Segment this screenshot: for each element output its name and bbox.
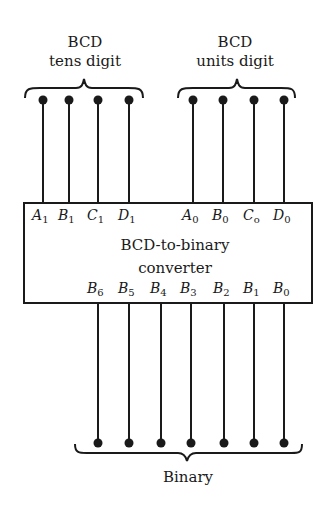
tens-terminal-3 [125,96,134,105]
units-brace [178,79,295,98]
binary-terminal-0 [94,439,103,448]
tens-pin-label-C1: C1 [87,208,104,225]
units-pin-label-A0: A0 [182,208,199,225]
block-label-line2: converter [90,261,260,276]
tens-pin-label-B1: B1 [58,208,75,225]
binary-pin-label-B1: B1 [243,281,260,298]
tens-terminal-2 [94,96,103,105]
units-terminal-0 [189,96,198,105]
block-label-line1: BCD-to-binary [90,238,260,253]
tens-pin-label-D1: D1 [118,208,136,225]
binary-title: Binary [150,470,226,485]
binary-pin-label-B0: B0 [273,281,290,298]
tens-title-line2: tens digit [35,54,135,69]
tens-brace [25,79,143,98]
tens-terminal-1 [65,96,74,105]
binary-terminal-2 [157,439,166,448]
binary-terminal-3 [187,439,196,448]
binary-terminal-5 [250,439,259,448]
tens-pin-label-A1: A1 [32,208,49,225]
units-pin-label-Co: Co [243,208,260,225]
binary-pin-label-B2: B2 [213,281,230,298]
binary-pin-label-B3: B3 [180,281,197,298]
binary-pin-label-B4: B4 [150,281,167,298]
units-title-line1: BCD [210,35,260,50]
binary-pin-label-B6: B6 [87,281,104,298]
units-pin-label-B0: B0 [212,208,229,225]
tens-terminal-0 [39,96,48,105]
binary-terminal-4 [220,439,229,448]
units-pin-label-D0: D0 [273,208,291,225]
units-terminal-3 [280,96,289,105]
binary-terminal-1 [125,439,134,448]
units-title-line2: units digit [185,54,285,69]
binary-terminal-6 [280,439,289,448]
tens-title-line1: BCD [60,35,110,50]
binary-pin-label-B5: B5 [118,281,135,298]
units-terminal-2 [250,96,259,105]
diagram-lines [0,0,330,508]
units-terminal-1 [219,96,228,105]
